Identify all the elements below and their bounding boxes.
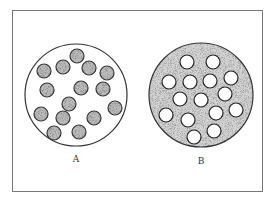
- particle-circle: [209, 106, 223, 120]
- particle-circle: [173, 92, 187, 106]
- particle-stipple: [35, 108, 47, 120]
- particle-circle: [180, 55, 194, 69]
- diagram-canvas: A B: [0, 0, 269, 199]
- particle-stipple: [63, 98, 75, 110]
- particle-stipple: [109, 102, 121, 114]
- particle-circle: [162, 75, 176, 89]
- particle-stipple: [88, 112, 100, 124]
- particle-circle: [207, 124, 221, 138]
- particle-circle: [206, 55, 220, 69]
- particle-circle: [203, 74, 217, 88]
- particle-stipple: [38, 65, 50, 77]
- particle-circle: [218, 87, 232, 101]
- panel-label-a: A: [72, 154, 80, 164]
- particle-stipple: [41, 84, 53, 96]
- particle-circle: [224, 71, 238, 85]
- particle-stipple: [48, 127, 60, 139]
- particle-circle: [183, 75, 197, 89]
- particle-stipple: [101, 67, 113, 79]
- panel-b: B: [149, 43, 253, 166]
- panel-a: A: [25, 44, 127, 164]
- particle-stipple: [97, 83, 109, 95]
- panel-label-b: B: [198, 156, 205, 166]
- particle-stipple: [57, 112, 69, 124]
- particle-circle: [194, 93, 208, 107]
- particle-stipple: [73, 126, 85, 138]
- particle-circle: [187, 130, 201, 144]
- particle-stipple: [71, 50, 83, 62]
- particle-circle: [181, 113, 195, 127]
- particle-stipple: [83, 62, 95, 74]
- particle-stipple: [57, 61, 69, 73]
- particle-stipple: [75, 82, 87, 94]
- particle-circle: [229, 103, 243, 117]
- particle-circle: [159, 108, 173, 122]
